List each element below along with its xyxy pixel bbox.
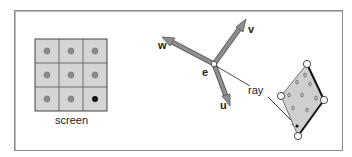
vertex-top — [303, 60, 310, 67]
ray-label: ray — [248, 85, 263, 96]
screen-label: screen — [55, 115, 88, 126]
w-axis-label: w — [158, 40, 167, 51]
screen-grid — [35, 39, 107, 111]
v-axis-label: v — [248, 24, 254, 35]
diagram-canvas — [0, 0, 352, 157]
vertex-right — [320, 96, 327, 103]
highlighted-sample — [92, 96, 98, 102]
camera-basis — [162, 19, 246, 106]
eye-label: e — [202, 67, 208, 78]
vertex-left — [277, 92, 284, 99]
eye-point — [211, 61, 217, 67]
u-axis-label: u — [220, 100, 227, 111]
triangle-mesh — [277, 60, 327, 139]
vertex-bottom — [294, 132, 301, 139]
